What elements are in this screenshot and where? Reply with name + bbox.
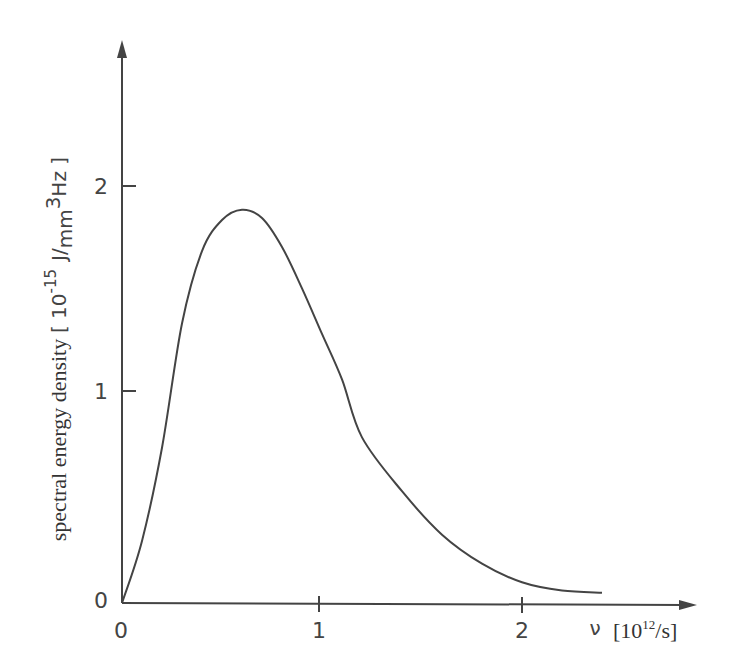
svg-text:[ 10-15J/mm3Hz ]: [ 10-15J/mm3Hz ] [41,157,77,333]
x-tick-label-1: 1 [312,618,326,643]
x-tick-label-2: 2 [515,618,529,643]
y-axis-label: spectral energy density [46,339,71,541]
x-axis-symbol: ν [589,616,600,640]
y-axis-title: spectral energy density [46,339,71,541]
y-tick-label-1: 1 [94,379,108,404]
spectral-density-chart: 2 1 0 0 1 2 ν [1012/s] spectral energy d… [0,0,735,670]
y-tick-label-0: 0 [94,588,108,613]
x-axis [122,603,685,605]
x-axis-unit: [1012/s] [613,617,677,643]
y-axis-arrow-icon [117,40,127,58]
x-tick-label-0: 0 [114,618,128,643]
y-tick-label-2: 2 [94,174,108,199]
y-axis-unit: [ 10-15J/mm3Hz ] [41,157,77,333]
energy-density-curve [122,210,602,603]
x-axis-arrow-icon [679,600,697,610]
